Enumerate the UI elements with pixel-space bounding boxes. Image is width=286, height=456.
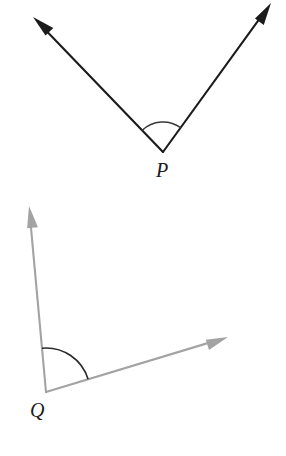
vertex-label-q: Q <box>30 399 45 421</box>
angles-diagram: P Q <box>0 0 286 456</box>
figure-background <box>0 0 286 456</box>
vertex-label-p: P <box>155 159 168 181</box>
angle-figure-canvas: P Q <box>0 0 286 456</box>
